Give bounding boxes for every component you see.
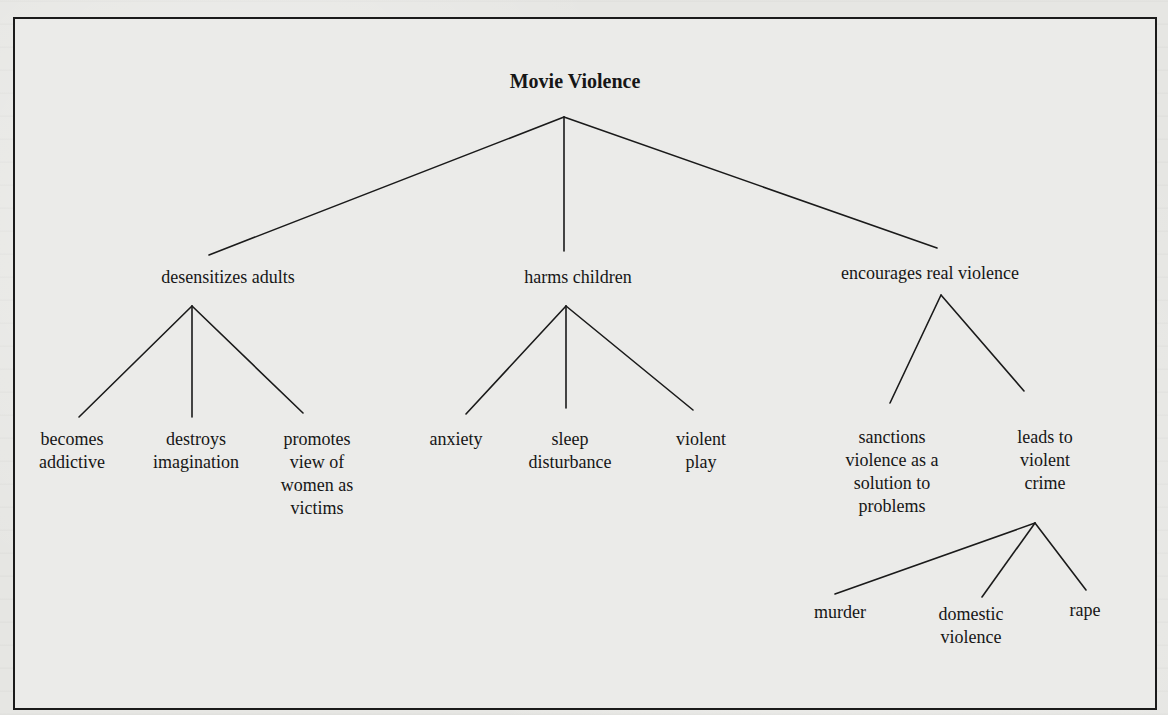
node-line: addictive [39, 451, 105, 474]
node-line: sanctions [846, 426, 939, 449]
node-line: victims [281, 497, 353, 520]
node-line: promotes [281, 428, 353, 451]
node-anxiety: anxiety [430, 428, 483, 451]
node-line: disturbance [529, 451, 612, 474]
node-harms-children: harms children [524, 266, 631, 289]
node-sanctions-violence: sanctions violence as a solution to prob… [846, 426, 939, 518]
node-line: play [676, 451, 726, 474]
node-line: view of [281, 451, 353, 474]
node-line: murder [814, 601, 866, 624]
diagram-title: Movie Violence [510, 70, 641, 93]
node-encourages-real-violence: encourages real violence [841, 262, 1019, 285]
node-label: desensitizes adults [161, 266, 294, 289]
node-line: anxiety [430, 428, 483, 451]
node-line: domestic [939, 603, 1004, 626]
node-murder: murder [814, 601, 866, 624]
node-line: women as [281, 474, 353, 497]
node-leads-to-violent-crime: leads to violent crime [1017, 426, 1073, 495]
node-line: leads to [1017, 426, 1073, 449]
node-becomes-addictive: becomes addictive [39, 428, 105, 474]
node-violent-play: violent play [676, 428, 726, 474]
node-rape: rape [1070, 599, 1101, 622]
node-line: violence as a [846, 449, 939, 472]
node-destroys-imagination: destroys imagination [153, 428, 239, 474]
node-line: violent [1017, 449, 1073, 472]
node-promotes-view-of-women: promotes view of women as victims [281, 428, 353, 520]
title-text: Movie Violence [510, 70, 641, 93]
node-line: destroys [153, 428, 239, 451]
node-line: problems [846, 495, 939, 518]
node-line: violent [676, 428, 726, 451]
node-line: solution to [846, 472, 939, 495]
node-domestic-violence: domestic violence [939, 603, 1004, 649]
node-label: encourages real violence [841, 262, 1019, 285]
node-desensitizes-adults: desensitizes adults [161, 266, 294, 289]
node-line: violence [939, 626, 1004, 649]
node-line: imagination [153, 451, 239, 474]
node-sleep-disturbance: sleep disturbance [529, 428, 612, 474]
node-line: becomes [39, 428, 105, 451]
node-line: sleep [529, 428, 612, 451]
node-line: rape [1070, 599, 1101, 622]
node-line: crime [1017, 472, 1073, 495]
node-label: harms children [524, 266, 631, 289]
